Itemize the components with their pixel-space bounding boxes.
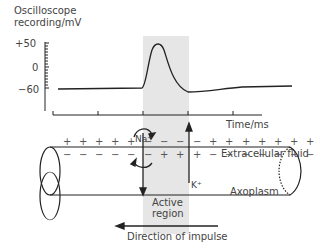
- charge-inside: −: [95, 149, 103, 160]
- charge-outside: +: [127, 136, 135, 147]
- charge-inside: −: [209, 149, 217, 160]
- charge-inside: −: [258, 149, 266, 160]
- charge-outside: −: [160, 136, 168, 147]
- charge-inside: −: [144, 149, 152, 160]
- charge-outside: +: [95, 136, 103, 147]
- charge-outside: −: [193, 136, 201, 147]
- charge-outside: +: [79, 136, 87, 147]
- charge-inside: −: [225, 149, 233, 160]
- charge-inside: −: [79, 149, 87, 160]
- charge-inside: −: [290, 149, 298, 160]
- charge-inside: −: [306, 149, 314, 160]
- charge-outside: +: [111, 136, 119, 147]
- charge-inside: +: [176, 149, 184, 160]
- charge-outside: +: [258, 136, 266, 147]
- charge-outside: −: [176, 136, 184, 147]
- charge-inside: −: [242, 149, 250, 160]
- charge-outside: +: [242, 136, 250, 147]
- x-axis-label: Time/ms: [226, 119, 269, 130]
- y-axis-label-line1: Oscilloscope: [14, 5, 76, 16]
- ytick-plus50: +50: [15, 38, 36, 49]
- active-region-label-2: region: [152, 208, 184, 219]
- charge-outside: +: [306, 136, 314, 147]
- charge-outside: +: [290, 136, 298, 147]
- direction-label: Direction of impulse: [127, 231, 228, 242]
- ytick-0: 0: [32, 62, 38, 73]
- charge-inside: +: [193, 149, 201, 160]
- charge-outside: +: [209, 136, 217, 147]
- charge-inside: −: [63, 149, 71, 160]
- charge-outside: +: [63, 136, 71, 147]
- charge-inside: −: [274, 149, 282, 160]
- ytick-minus60: −60: [18, 84, 39, 95]
- k-label: K⁺: [191, 180, 202, 191]
- y-axis-label-line2: recording/mV: [14, 17, 81, 28]
- charge-inside: −: [127, 149, 135, 160]
- charge-outside: +: [274, 136, 282, 147]
- charge-outside: −: [144, 136, 152, 147]
- active-region-label-1: Active: [152, 197, 183, 208]
- charge-outside: +: [225, 136, 233, 147]
- y-axis: [45, 42, 49, 111]
- charge-inside: +: [160, 149, 168, 160]
- charge-inside: −: [111, 149, 119, 160]
- axoplasm-label: Axoplasm: [230, 186, 279, 197]
